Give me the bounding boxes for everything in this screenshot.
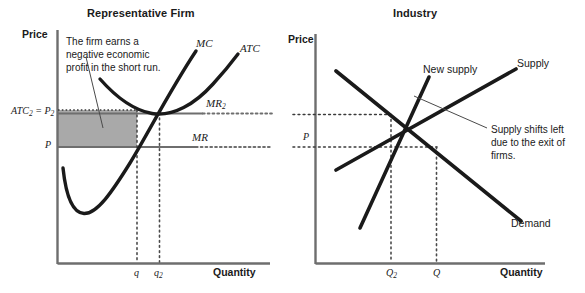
right-annotation-leader — [414, 96, 487, 128]
left-ytick-atc2-suffix: = P — [33, 105, 51, 116]
left-xtick-q2-sub: 2 — [159, 271, 163, 280]
right-xtick-Q2: Q2 — [386, 267, 397, 280]
left-y-axis-label: Price — [22, 28, 48, 41]
mc-curve-label: MC — [196, 37, 213, 50]
left-ytick-atc2-text: ATC — [11, 105, 29, 116]
left-ytick-p: P — [45, 139, 51, 151]
supply-label: Supply — [517, 57, 549, 70]
right-ytick-p: P — [303, 131, 309, 143]
left-panel-title: Representative Firm — [87, 7, 195, 20]
right-xtick-Q: Q — [433, 267, 440, 279]
left-x-axis-label: Quantity — [213, 266, 256, 279]
new-supply-label: New supply — [423, 63, 477, 76]
mr-curve-label: MR — [192, 131, 208, 144]
atc-curve-label: ATC — [240, 42, 260, 55]
left-annotation-text: The firm earns a negative economic profi… — [66, 36, 161, 74]
demand-label: Demand — [511, 217, 551, 230]
left-annotation-line: The firm earns a negative economic profi… — [66, 36, 161, 73]
right-x-axis-label: Quantity — [500, 266, 543, 279]
left-ytick-atc2: ATC2 = P2 — [11, 105, 54, 118]
right-annotation-text: Supply shifts left due to the exit of fi… — [491, 124, 565, 162]
negative-profit-shaded-area — [58, 110, 137, 147]
right-panel-title: Industry — [393, 7, 437, 20]
right-annotation-line: Supply shifts left due to the exit of fi… — [491, 124, 565, 161]
right-xtick-Q2-sub: 2 — [393, 271, 397, 280]
mr2-label-subscript: 2 — [222, 102, 226, 111]
mr2-curve-label: MR2 — [206, 97, 226, 111]
left-ytick-atc2-suffix-sub: 2 — [51, 109, 55, 118]
left-xtick-q2: q2 — [154, 267, 163, 280]
left-xtick-q: q — [134, 267, 139, 279]
right-y-axis-label: Price — [288, 33, 314, 46]
figure-canvas: Representative Firm Price Quantity The f… — [0, 0, 585, 293]
mr2-label-text: MR — [206, 97, 222, 109]
